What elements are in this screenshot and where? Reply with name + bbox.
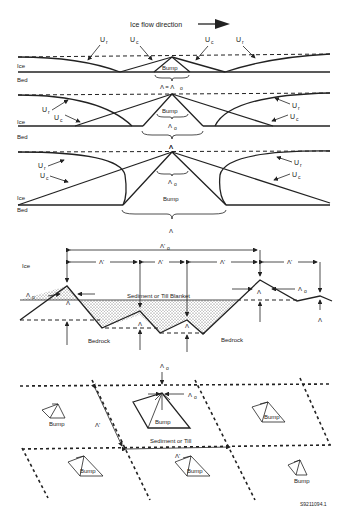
bedrock-label: Bedrock [88,338,111,344]
ice-label: Ice [17,119,26,125]
bump-label: Bump [162,65,178,71]
svg-text:Bump: Bump [187,468,203,474]
u-label: U [205,36,210,43]
svg-text:r: r [298,105,300,111]
svg-text:o: o [304,288,307,294]
flow-direction-header: Ice flow direction [130,19,230,29]
u-label: U [130,36,135,43]
u-label: U [292,102,297,109]
svg-text:Λ: Λ [188,392,192,398]
lambda-label: Λ [66,300,70,306]
svg-text:o: o [174,125,177,131]
svg-text:c: c [136,39,139,45]
panel-3-large-bump: U r U c U r U c Λ Ice Bed Λ o Bump Λ [17,144,330,234]
lambda-top-label: Λ [169,144,173,150]
ice-surface-line [18,54,330,57]
svg-text:r: r [48,109,50,115]
svg-text:c: c [60,117,63,123]
lambda-prime-label: Λ' [175,453,180,459]
ice-label: Ice [17,63,26,69]
lambda-o-label: Λ [26,292,30,298]
sediment-label: Sediment or Till [150,438,191,444]
bump-small: Bump [252,402,285,422]
panel-1-small-bump: U r U c U c U r Ice Bed Bump Λ = Λ o [17,36,330,91]
flow-arrow-icon [215,19,230,29]
svg-text:o: o [166,365,169,371]
svg-text:o: o [194,394,197,400]
bed-label: Bed [17,134,28,140]
lambda-o-label: Λ [168,123,172,129]
lambda-prime-label: Λ' [287,259,292,265]
svg-text:c: c [298,174,301,180]
lambda-prime-label: Λ' [220,259,225,265]
title-text: Ice flow direction [130,21,182,28]
bump-label: Bump [162,108,178,114]
lambda-label: Λ [257,289,261,295]
u-label: U [290,113,295,120]
ice-label: Ice [22,263,31,269]
u-label: U [38,162,43,169]
lambda-equals-label: Λ = Λ [160,84,174,90]
lambda-prime-o-label: Λ' [160,243,165,249]
svg-text:o: o [167,245,170,251]
u-label: U [40,172,45,179]
bump-label: Bump [163,196,179,202]
svg-text:Bump: Bump [294,478,310,484]
svg-text:c: c [211,39,214,45]
panel-5-plan-view: Λ o Λ o Bump Bump Bump Bump [20,363,332,500]
panel-2-medium-bump: U r U c U r U c Ice Bed Bump Λ o Λ [17,93,330,150]
svg-text:Bump: Bump [80,468,96,474]
svg-text:o: o [174,181,177,187]
svg-text:Λ: Λ [138,321,142,327]
svg-text:r: r [44,165,46,171]
svg-text:Λ: Λ [318,317,322,323]
svg-text:o: o [32,294,35,300]
lambda-o-label: Λ [168,179,172,185]
sediment-label: Sediment or Till Blanket [127,293,190,299]
figure-id: S9211094.1 [300,501,327,507]
bed-label: Bed [17,207,28,213]
u-label: U [54,114,59,121]
bump-small: Bump [68,456,103,476]
lambda-prime-label: Λ' [158,259,163,265]
ice-bed-bump-diagram: Ice flow direction U r U c U c U r Ice B… [0,0,350,518]
ice-label: Ice [17,195,26,201]
lambda-prime-label: Λ' [99,259,104,265]
lambda-label: Λ [169,228,173,234]
u-label: U [236,36,241,43]
svg-text:r: r [242,39,244,45]
u-label: U [292,171,297,178]
panel-4-cross-section: Λ' o Λ' Λ' Λ' Λ' Ice Λ o Λ Λ o Λ Λ Λ Λ S… [20,243,332,352]
lambda-o-label: Λ [298,286,302,292]
bump-small: Bump [42,404,65,427]
bed-label: Bed [17,77,28,83]
svg-text:Λ: Λ [185,323,189,329]
bump-small: Bump [175,456,210,476]
lambda-prime-label: Λ' [95,422,100,428]
svg-text:r: r [300,162,302,168]
bump-large: Λ o Bump [133,392,197,428]
svg-text:Λ: Λ [160,363,164,369]
svg-text:Bump: Bump [264,414,280,420]
u-label: U [294,159,299,166]
svg-text:Bump: Bump [49,421,65,427]
u-label: U [100,36,105,43]
bump-small: Bump [288,460,310,484]
bump-label: Bump [155,419,171,425]
svg-text:r: r [106,39,108,45]
svg-text:c: c [46,175,49,181]
u-label: U [42,106,47,113]
bedrock-label: Bedrock [221,337,244,343]
svg-text:o: o [180,85,183,91]
svg-text:c: c [296,116,299,122]
